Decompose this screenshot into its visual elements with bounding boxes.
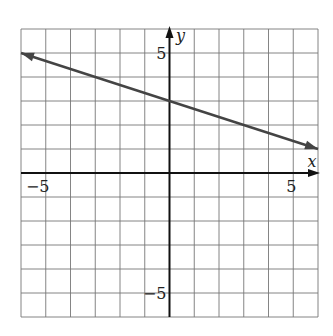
y-tick-label: −5 bbox=[143, 284, 167, 303]
x-tick-label: 5 bbox=[286, 177, 296, 196]
coordinate-plane: −555−5xy bbox=[0, 0, 333, 336]
y-axis-arrow-icon bbox=[166, 26, 174, 38]
x-axis-label: x bbox=[307, 152, 316, 171]
y-axis-label: y bbox=[175, 26, 186, 45]
line-arrow-right-icon bbox=[304, 141, 318, 150]
line-arrow-left-icon bbox=[21, 53, 35, 62]
axes bbox=[21, 26, 320, 317]
y-tick-label: 5 bbox=[156, 44, 166, 63]
x-tick-label: −5 bbox=[26, 177, 50, 196]
